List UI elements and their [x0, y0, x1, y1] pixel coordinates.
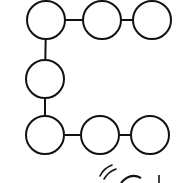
node-circle-n1: [27, 1, 65, 39]
node-circle-n2: [83, 1, 121, 39]
node-circle-n7: [131, 116, 169, 154]
motion-arc-1: [100, 165, 112, 176]
motion-arc-2: [104, 169, 116, 179]
cropped-figure-fragment: [100, 165, 159, 183]
node-circle-n3: [133, 1, 171, 39]
node-circle-n5: [26, 116, 64, 154]
chain-diagram: [0, 0, 179, 183]
node-circle-n6: [81, 116, 119, 154]
node-group: [26, 1, 171, 154]
partial-circle-arc: [121, 176, 141, 183]
node-circle-n4: [26, 60, 64, 98]
